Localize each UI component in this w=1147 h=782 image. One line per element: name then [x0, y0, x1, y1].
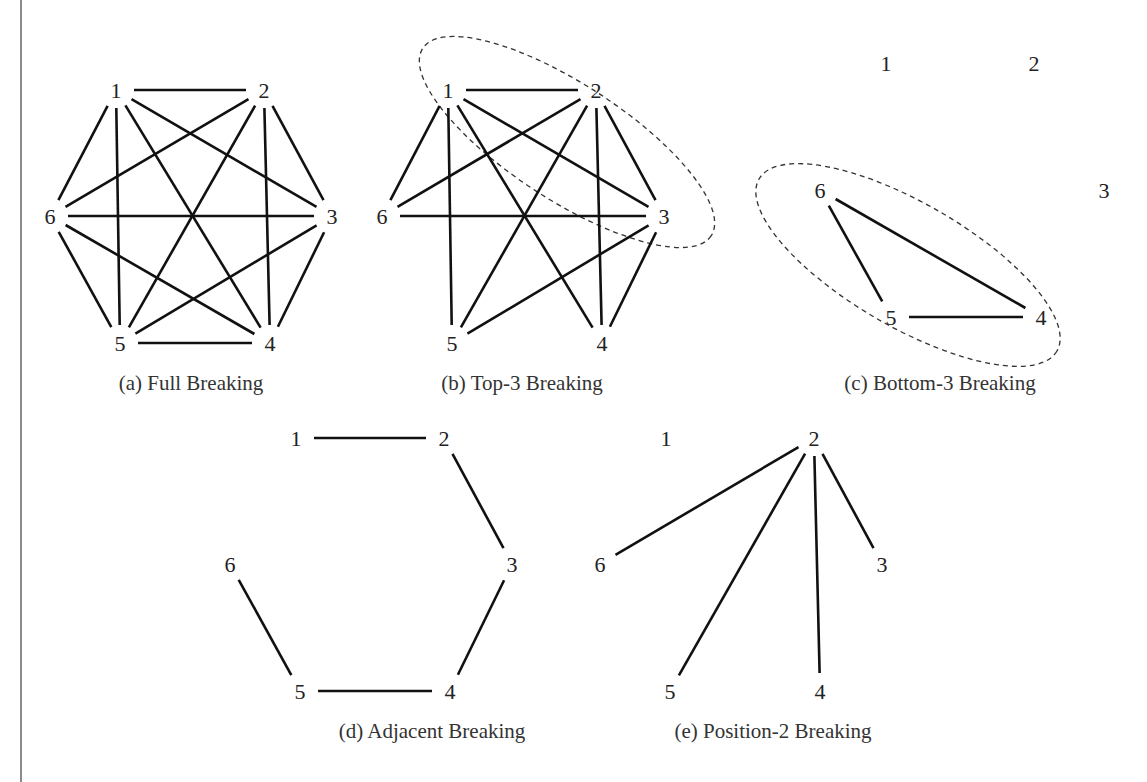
- panel-full-breaking: 123456(a) Full Breaking: [45, 78, 338, 395]
- edge-2-6: [616, 447, 799, 555]
- edge-6-4: [836, 199, 1026, 308]
- node-6-label: 6: [225, 552, 236, 577]
- node-1-label: 1: [443, 78, 454, 103]
- node-2-label: 2: [591, 78, 602, 103]
- edge-3-4: [458, 580, 504, 675]
- node-3-label: 3: [507, 552, 518, 577]
- node-5-label: 5: [665, 679, 676, 704]
- node-3-label: 3: [327, 204, 338, 229]
- edge-3-4: [610, 232, 656, 327]
- edge-3-5: [467, 225, 648, 333]
- edge-2-5: [679, 454, 805, 676]
- node-1-label: 1: [111, 78, 122, 103]
- node-5-label: 5: [115, 331, 126, 356]
- node-1-label: 1: [881, 51, 892, 76]
- breaking-diagrams-figure: 123456(a) Full Breaking 123456(b) Top-3 …: [0, 0, 1147, 782]
- node-4-label: 4: [597, 331, 608, 356]
- node-6-label: 6: [377, 204, 388, 229]
- node-2-label: 2: [439, 426, 450, 451]
- node-2-label: 2: [259, 78, 270, 103]
- edge-5-6: [239, 580, 292, 675]
- node-2-label: 2: [1029, 51, 1040, 76]
- edge-2-4: [814, 456, 819, 673]
- node-3-label: 3: [1099, 178, 1110, 203]
- node-2-label: 2: [809, 426, 820, 451]
- edge-2-3: [823, 454, 874, 548]
- node-6-label: 6: [595, 552, 606, 577]
- node-4-label: 4: [1036, 305, 1047, 330]
- node-4-label: 4: [815, 679, 826, 704]
- edge-3-4: [278, 232, 324, 327]
- node-3-label: 3: [877, 552, 888, 577]
- panel-caption: (a) Full Breaking: [119, 371, 264, 395]
- node-1-label: 1: [661, 426, 672, 451]
- panel-bottom-3-breaking: 123456(c) Bottom-3 Breaking: [728, 51, 1109, 405]
- panel-caption: (c) Bottom-3 Breaking: [844, 371, 1036, 395]
- panel-adjacent-breaking: 123456(d) Adjacent Breaking: [225, 426, 526, 743]
- group-highlight-ellipse: [728, 125, 1088, 404]
- node-6-label: 6: [45, 204, 56, 229]
- node-5-label: 5: [447, 331, 458, 356]
- node-6-label: 6: [815, 178, 826, 203]
- node-1-label: 1: [291, 426, 302, 451]
- panel-caption: (b) Top-3 Breaking: [441, 371, 603, 395]
- panel-caption: (d) Adjacent Breaking: [339, 719, 526, 743]
- node-4-label: 4: [265, 331, 276, 356]
- edge-2-3: [453, 454, 504, 548]
- node-4-label: 4: [445, 679, 456, 704]
- node-3-label: 3: [659, 204, 670, 229]
- panel-caption: (e) Position-2 Breaking: [674, 719, 872, 743]
- node-5-label: 5: [886, 305, 897, 330]
- panel-position-2-breaking: 123456(e) Position-2 Breaking: [595, 426, 888, 743]
- node-5-label: 5: [295, 679, 306, 704]
- panel-top-3-breaking: 123456(b) Top-3 Breaking: [377, 0, 743, 395]
